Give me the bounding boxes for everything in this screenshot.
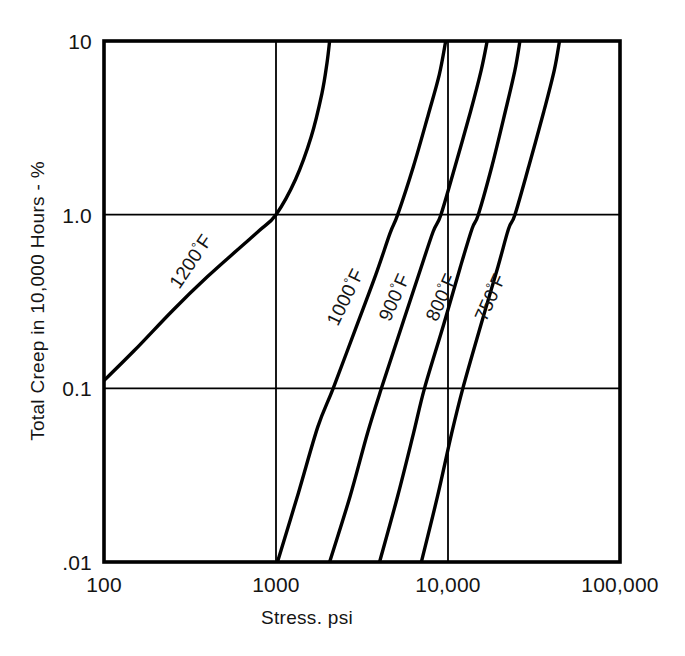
x-tick-label: 10,000 bbox=[415, 573, 480, 596]
y-tick-label: 1.0 bbox=[62, 204, 92, 227]
y-axis-title: Total Creep in 10,000 Hours - % bbox=[27, 161, 48, 441]
x-axis-title: Stress. psi bbox=[261, 607, 353, 628]
chart-canvas: 100100010,000100,000 101.00.1.01 1200°F1… bbox=[0, 0, 685, 656]
y-tick-label: .01 bbox=[62, 551, 92, 574]
x-tick-label: 1000 bbox=[252, 573, 300, 596]
y-tick-label: 10 bbox=[68, 30, 92, 53]
x-tick-label: 100,000 bbox=[581, 573, 658, 596]
creep-stress-chart-figure: 100100010,000100,000 101.00.1.01 1200°F1… bbox=[0, 0, 685, 656]
y-tick-label: 0.1 bbox=[62, 377, 92, 400]
x-tick-label: 100 bbox=[86, 573, 122, 596]
